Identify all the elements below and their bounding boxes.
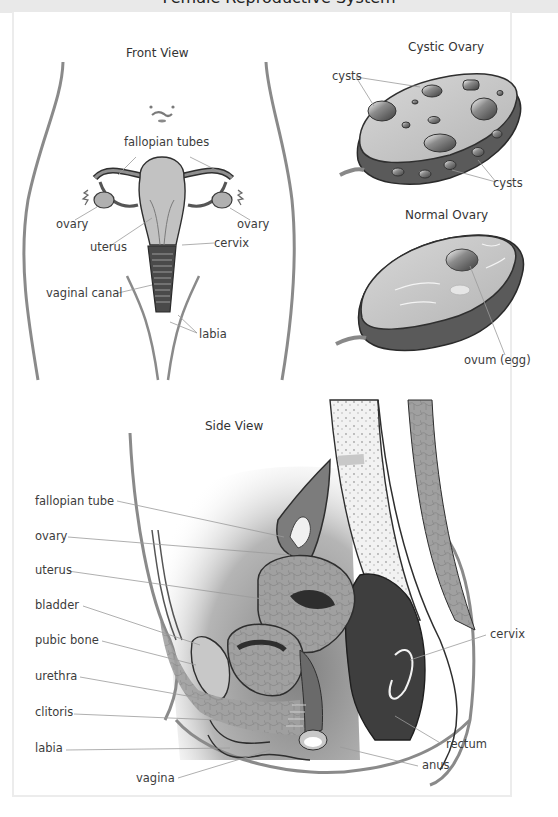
label-vagina: vagina — [136, 771, 175, 785]
label-rectum: rectum — [446, 737, 487, 751]
cystic-ovary-illustration — [340, 74, 521, 185]
label-labia-front: labia — [199, 327, 227, 341]
label-cervix: cervix — [214, 236, 249, 250]
label-ovary-left: ovary — [56, 217, 88, 231]
normal-ovary-illustration — [336, 235, 523, 355]
label-labia-side: labia — [35, 741, 63, 755]
label-uterus-side: uterus — [35, 563, 72, 577]
label-ovary-right: ovary — [237, 217, 269, 231]
label-anus: anus — [422, 758, 450, 772]
front-view-title: Front View — [126, 46, 189, 60]
side-view-illustration — [66, 400, 486, 785]
label-ovary-side: ovary — [35, 529, 67, 543]
label-vaginal-canal: vaginal canal — [46, 286, 122, 300]
label-cervix-side: cervix — [490, 627, 525, 641]
label-clitoris: clitoris — [35, 705, 73, 719]
anatomy-illustration — [0, 0, 558, 817]
side-view-title: Side View — [205, 419, 263, 433]
cystic-ovary-title: Cystic Ovary — [408, 40, 484, 54]
label-fallopian-tubes: fallopian tubes — [124, 135, 209, 149]
label-uterus: uterus — [90, 240, 127, 254]
label-ovum: ovum (egg) — [464, 353, 531, 367]
normal-ovary-title: Normal Ovary — [405, 208, 488, 222]
label-fallopian-tube-side: fallopian tube — [35, 494, 114, 508]
label-cysts-top: cysts — [332, 69, 362, 83]
label-pubic-bone: pubic bone — [35, 633, 99, 647]
label-bladder: bladder — [35, 598, 79, 612]
label-urethra: urethra — [35, 669, 77, 683]
label-cysts-bottom: cysts — [493, 176, 523, 190]
diagram-title: Female Reproductive System — [0, 0, 558, 7]
